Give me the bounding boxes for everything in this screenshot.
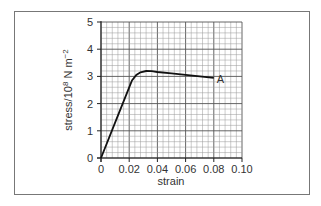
y-tick-label: 2 — [87, 98, 93, 110]
y-tick-label: 0 — [87, 152, 93, 164]
y-tick-labels: 012345 — [87, 16, 93, 164]
x-tick-label: 0 — [98, 163, 104, 175]
point-a-label: A — [217, 73, 225, 85]
x-tick-label: 0.04 — [147, 163, 168, 175]
y-axis-label: stress/108 N m−2 — [61, 49, 74, 131]
y-tick-label: 4 — [87, 43, 93, 55]
x-axis-label: strain — [158, 175, 185, 187]
stress-strain-chart: A 00.020.040.060.080.10 012345 strain st… — [0, 0, 321, 206]
x-tick-labels: 00.020.040.060.080.10 — [98, 163, 253, 175]
x-tick-label: 0.08 — [203, 163, 224, 175]
grid — [101, 22, 242, 158]
x-tick-label: 0.10 — [231, 163, 252, 175]
y-tick-label: 5 — [87, 16, 93, 28]
y-tick-label: 1 — [87, 125, 93, 137]
x-tick-label: 0.06 — [175, 163, 196, 175]
axes — [97, 21, 242, 162]
x-tick-label: 0.02 — [118, 163, 139, 175]
y-tick-label: 3 — [87, 70, 93, 82]
